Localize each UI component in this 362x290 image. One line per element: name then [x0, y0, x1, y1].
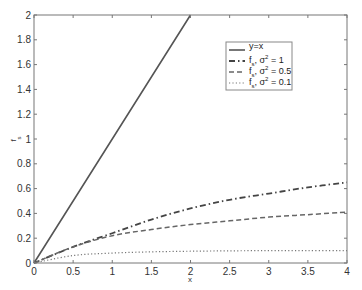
y-tick-label: 1.8	[17, 34, 31, 45]
x-tick-label: 0	[31, 266, 37, 277]
y-tick-label: 0.8	[17, 158, 31, 169]
series-line-2	[34, 212, 347, 263]
y-tick-label: 0	[25, 258, 31, 269]
legend-entry: y=x	[249, 41, 264, 51]
svg-text:fs: fs	[9, 136, 22, 141]
x-tick-label: 2.5	[223, 266, 237, 277]
y-tick-label: 1.6	[17, 59, 31, 70]
x-tick-label: 3.5	[301, 266, 315, 277]
x-tick-label: 4	[344, 266, 350, 277]
x-tick-label: 0.5	[66, 266, 80, 277]
y-axis-label: fs	[9, 136, 22, 141]
y-tick-label: 0.2	[17, 233, 31, 244]
y-tick-label: 0.4	[17, 208, 31, 219]
x-tick-label: 3	[266, 266, 272, 277]
x-tick-label: 1.5	[144, 266, 158, 277]
x-tick-label: 1	[109, 266, 115, 277]
ticks-layer	[34, 15, 347, 263]
series-layer	[34, 15, 347, 263]
legend: y=xfs, σ2 = 1fs, σ2 = 0.5fs, σ2 = 0.1	[226, 41, 292, 90]
series-line-0	[34, 15, 191, 263]
y-tick-label: 2	[25, 10, 31, 21]
x-axis-label: x	[188, 275, 192, 284]
y-tick-label: 1	[25, 134, 31, 145]
plot-frame	[34, 15, 347, 263]
line-chart: 00.511.522.533.54 00.20.40.60.811.21.41.…	[0, 0, 362, 290]
y-tick-label: 1.4	[17, 84, 31, 95]
y-tick-label: 1.2	[17, 109, 31, 120]
y-tick-label: 0.6	[17, 183, 31, 194]
